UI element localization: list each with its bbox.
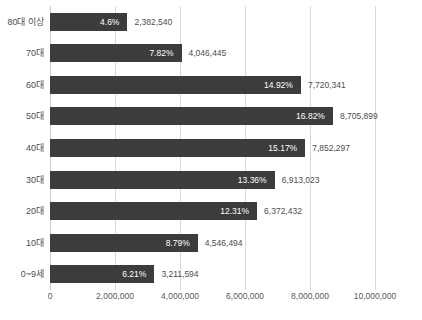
bar-value-label: 4,046,445: [189, 49, 227, 58]
category-label: 20대: [26, 207, 44, 216]
bar-percent-label: 8.79%: [166, 238, 190, 247]
bar-row: 60대14.92%7,720,341: [50, 69, 422, 101]
bar-row: 20대12.31%6,372,432: [50, 195, 422, 227]
bar-row: 30대13.36%6,913,023: [50, 164, 422, 196]
bar-value-label: 7,720,341: [308, 81, 346, 90]
bar-percent-label: 4.6%: [100, 18, 119, 27]
bar-row: 0~9세6.21%3,211,594: [50, 258, 422, 290]
bar[interactable]: 15.17%: [50, 139, 305, 157]
bar-percent-label: 12.31%: [220, 207, 249, 216]
bar[interactable]: 8.79%: [50, 234, 198, 252]
category-label: 40대: [26, 143, 44, 152]
bar-row: 70대7.82%4,046,445: [50, 38, 422, 70]
bar-value-label: 7,852,297: [312, 144, 350, 153]
bar-value-label: 8,705,899: [340, 112, 378, 121]
x-tick-label: 4,000,000: [161, 292, 199, 301]
category-label: 10대: [26, 238, 44, 247]
x-tick-label: 6,000,000: [226, 292, 264, 301]
category-label: 30대: [26, 175, 44, 184]
bar-percent-label: 15.17%: [268, 144, 297, 153]
bar[interactable]: 4.6%: [50, 13, 127, 31]
bar-row: 10대8.79%4,546,494: [50, 227, 422, 259]
bar-row: 40대15.17%7,852,297: [50, 132, 422, 164]
category-label: 70대: [26, 49, 44, 58]
category-label: 80대 이상: [7, 17, 44, 26]
x-axis: 02,000,0004,000,0006,000,0008,000,00010,…: [50, 292, 375, 306]
bar[interactable]: 16.82%: [50, 107, 333, 125]
x-tick-label: 2,000,000: [96, 292, 134, 301]
bar-percent-label: 16.82%: [296, 112, 325, 121]
bar[interactable]: 14.92%: [50, 76, 301, 94]
x-tick-label: 10,000,000: [354, 292, 397, 301]
bar-percent-label: 13.36%: [238, 175, 267, 184]
x-tick-label: 8,000,000: [291, 292, 329, 301]
x-tick-label: 0: [48, 292, 53, 301]
bar-value-label: 4,546,494: [205, 238, 243, 247]
category-label: 50대: [26, 112, 44, 121]
bar[interactable]: 6.21%: [50, 265, 154, 283]
bar-value-label: 6,913,023: [282, 175, 320, 184]
bar-row: 80대 이상4.6%2,382,540: [50, 6, 422, 38]
bar-chart: 80대 이상4.6%2,382,54070대7.82%4,046,44560대1…: [0, 0, 422, 320]
category-label: 0~9세: [21, 270, 44, 279]
bar-percent-label: 14.92%: [264, 81, 293, 90]
bar-value-label: 3,211,594: [161, 270, 198, 279]
bar-percent-label: 7.82%: [149, 49, 173, 58]
bar[interactable]: 13.36%: [50, 171, 275, 189]
bar[interactable]: 12.31%: [50, 202, 257, 220]
bar-value-label: 2,382,540: [134, 18, 172, 27]
category-label: 60대: [26, 80, 44, 89]
bar-percent-label: 6.21%: [122, 270, 146, 279]
plot-area: 80대 이상4.6%2,382,54070대7.82%4,046,44560대1…: [50, 6, 375, 290]
bar[interactable]: 7.82%: [50, 44, 182, 62]
bar-value-label: 6,372,432: [264, 207, 302, 216]
bar-row: 50대16.82%8,705,899: [50, 101, 422, 133]
